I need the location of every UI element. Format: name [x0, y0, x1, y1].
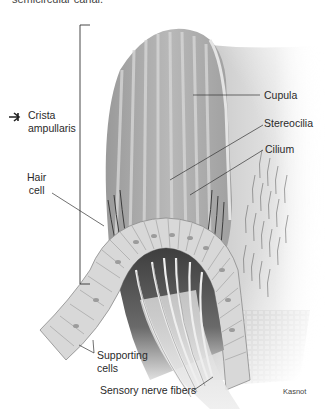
- label-supporting-cells-line2: cells: [97, 362, 148, 375]
- label-stereocilia: Stereocilia: [264, 117, 313, 130]
- label-crista-ampullaris: Crista ampullaris: [28, 109, 76, 135]
- label-hair-cell-line1: Hair: [27, 171, 46, 184]
- arrow-pointer-icon: [9, 112, 23, 122]
- label-supporting-cells: Supporting cells: [97, 349, 148, 375]
- hair-cell-leader: [52, 193, 104, 226]
- label-cilium: Cilium: [265, 143, 294, 156]
- label-hair-cell-line2: cell: [27, 184, 46, 197]
- label-sensory-nerve-fibers: Sensory nerve fibers: [100, 384, 196, 397]
- label-supporting-cells-line1: Supporting: [97, 349, 148, 362]
- label-crista-line2: ampullaris: [28, 122, 76, 135]
- label-crista-line1: Crista: [28, 109, 76, 122]
- label-hair-cell: Hair cell: [27, 171, 46, 197]
- label-cupula: Cupula: [264, 89, 297, 102]
- crista-bracket: [80, 25, 90, 284]
- illustrator-credit: Kasnot: [283, 387, 306, 396]
- crista-ampullaris-illustration: [0, 0, 327, 409]
